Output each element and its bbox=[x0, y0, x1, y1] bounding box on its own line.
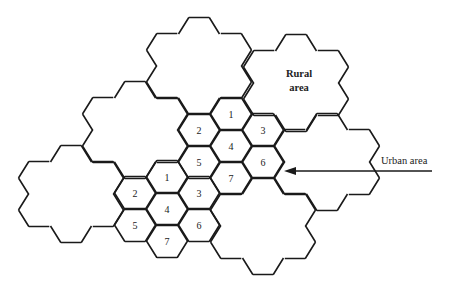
arrowhead-icon bbox=[284, 167, 296, 175]
cell-number-1: 1 bbox=[229, 109, 234, 120]
hex-clusters bbox=[19, 18, 380, 275]
cell-number-labels: 12345671234567 bbox=[133, 109, 266, 247]
cell-number-4: 4 bbox=[229, 141, 234, 152]
rural-cluster-right bbox=[275, 114, 380, 211]
rural-area-label-line2: area bbox=[289, 82, 309, 93]
cell-number-5: 5 bbox=[133, 220, 138, 231]
rural-cluster-outline bbox=[83, 82, 188, 179]
cell-number-3: 3 bbox=[261, 125, 266, 136]
rural-area-label-line1: Rural bbox=[286, 68, 312, 79]
cell-number-5: 5 bbox=[197, 157, 202, 168]
cell-number-7: 7 bbox=[165, 236, 170, 247]
rural-cluster-left-lower bbox=[19, 146, 124, 243]
rural-cluster-outline bbox=[211, 178, 316, 275]
cell-number-7: 7 bbox=[229, 173, 234, 184]
rural-cluster-outline bbox=[19, 146, 124, 243]
cellular-layout-diagram: 12345671234567 Rural area Urban area bbox=[0, 0, 452, 285]
urban-area-arrow bbox=[284, 167, 432, 175]
urban-area-label: Urban area bbox=[381, 155, 428, 166]
rural-cluster-outline bbox=[275, 114, 380, 211]
rural-cluster-left-upper bbox=[83, 82, 188, 179]
cell-number-6: 6 bbox=[197, 220, 202, 231]
rural-cluster-top bbox=[147, 18, 252, 115]
cell-number-2: 2 bbox=[197, 125, 202, 136]
cell-number-1: 1 bbox=[165, 172, 170, 183]
cell-number-6: 6 bbox=[261, 157, 266, 168]
cell-number-2: 2 bbox=[133, 188, 138, 199]
cell-number-3: 3 bbox=[197, 188, 202, 199]
rural-cluster-outline bbox=[147, 18, 252, 115]
cell-number-4: 4 bbox=[165, 204, 170, 215]
rural-cluster-bottom-right bbox=[211, 178, 316, 275]
